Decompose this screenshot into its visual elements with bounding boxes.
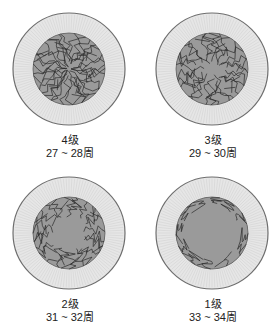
weeks-label: 33 ~ 34周	[143, 311, 280, 324]
panel-grade-1: 1级 33 ~ 34周	[143, 164, 280, 328]
weeks-label: 27 ~ 28周	[0, 147, 140, 160]
weeks-label: 29 ~ 30周	[143, 147, 280, 160]
grade-label: 3级	[143, 134, 280, 147]
caption-grade-1: 1级 33 ~ 34周	[143, 298, 280, 324]
caption-grade-4: 4级 27 ~ 28周	[0, 134, 140, 160]
lens-disc	[33, 33, 105, 105]
panel-grade-3: 3级 29 ~ 30周	[143, 0, 280, 164]
grade-label: 2级	[0, 298, 140, 311]
panel-grade-4: 4级 27 ~ 28周	[0, 0, 140, 164]
lens-disc	[176, 197, 248, 269]
grade-label: 4级	[0, 134, 140, 147]
weeks-label: 31 ~ 32周	[0, 311, 140, 324]
caption-grade-3: 3级 29 ~ 30周	[143, 134, 280, 160]
caption-grade-2: 2级 31 ~ 32周	[0, 298, 140, 324]
grade-label: 1级	[143, 298, 280, 311]
panel-grade-2: 2级 31 ~ 32周	[0, 164, 140, 328]
